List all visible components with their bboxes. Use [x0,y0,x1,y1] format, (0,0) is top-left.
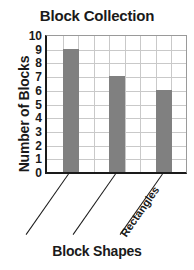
bar [109,76,125,172]
plot-area [45,35,187,174]
y-tick-label: 9 [22,45,42,55]
y-tick-label: 7 [22,72,42,82]
y-tick-label: 10 [22,31,42,41]
y-tick-label: 5 [22,100,42,110]
y-axis-tick-labels: 012345678910 [22,36,42,173]
y-tick-label: 8 [22,58,42,68]
y-tick-label: 2 [22,141,42,151]
bar [63,49,79,172]
grid-line-vertical [140,36,141,172]
x-axis-category-labels: Rectangles [45,174,194,240]
bar-chart: Block Collection Number of Blocks 012345… [0,0,194,270]
y-tick-label: 3 [22,127,42,137]
bar [156,90,172,172]
category-leader-line [26,174,69,235]
category-label: Rectangles [118,184,162,239]
grid-line-vertical [94,36,95,172]
grid-line-vertical [125,36,126,172]
x-axis-title: Block Shapes [0,243,194,259]
chart-title: Block Collection [0,7,194,24]
y-tick-label: 6 [22,86,42,96]
category-leader-line [119,174,162,235]
y-tick-label: 1 [22,154,42,164]
y-tick-label: 0 [22,168,42,178]
y-tick-label: 4 [22,113,42,123]
category-leader-line [73,174,116,235]
